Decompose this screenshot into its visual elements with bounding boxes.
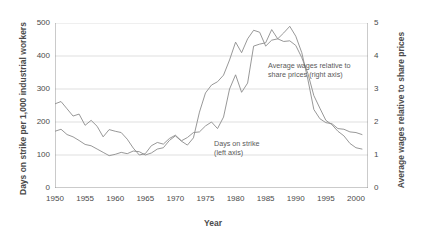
x-tick-1955: 1955 [68, 194, 102, 203]
y-tick-right-3: 3 [374, 84, 400, 93]
x-tick-1970: 1970 [158, 194, 192, 203]
wages-annotation-line1: Average wages relative to [268, 61, 351, 70]
x-tick-2000: 2000 [339, 194, 373, 203]
x-tick-1980: 1980 [219, 194, 253, 203]
x-tick-1985: 1985 [249, 194, 283, 203]
y-tick-left-500: 500 [24, 18, 50, 27]
y-tick-left-0: 0 [24, 183, 50, 192]
y-tick-left-300: 300 [24, 84, 50, 93]
y-tick-left-100: 100 [24, 150, 50, 159]
y-tick-left-400: 400 [24, 51, 50, 60]
strike-annotation: Days on strike(left axis) [214, 139, 260, 157]
y-tick-left-200: 200 [24, 117, 50, 126]
x-axis-title: Year [0, 218, 426, 228]
chart-figure: Days on strike per 1,000 industrial work… [0, 0, 426, 236]
y-tick-right-1: 1 [374, 150, 400, 159]
x-tick-1960: 1960 [98, 194, 132, 203]
x-tick-1990: 1990 [279, 194, 313, 203]
y-tick-right-2: 2 [374, 117, 400, 126]
y-tick-right-0: 0 [374, 183, 400, 192]
strike-annotation-line2: (left axis) [214, 148, 260, 157]
y-tick-right-4: 4 [374, 51, 400, 60]
y-tick-right-5: 5 [374, 18, 400, 27]
x-tick-1975: 1975 [188, 194, 222, 203]
wages-annotation: Average wages relative toshare prices (r… [268, 61, 351, 79]
series-line-0 [55, 26, 362, 155]
strike-annotation-line1: Days on strike [214, 139, 260, 148]
series-line-1 [55, 30, 362, 155]
x-tick-1995: 1995 [309, 194, 343, 203]
wages-annotation-line2: share prices (right axis) [268, 70, 351, 79]
plot-area [55, 23, 368, 188]
x-tick-1965: 1965 [128, 194, 162, 203]
plot-svg [55, 23, 368, 188]
x-tick-1950: 1950 [38, 194, 72, 203]
